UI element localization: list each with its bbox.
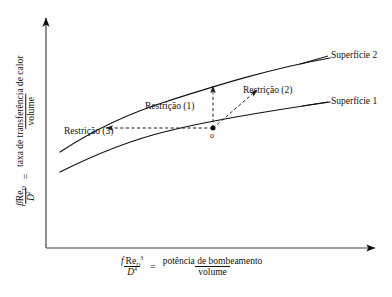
curve-label-surface-1: Superfície 1	[331, 96, 377, 106]
x-lhs-re: Re	[126, 256, 137, 266]
origin-point-label: o	[210, 131, 214, 140]
curve-surface-2	[60, 58, 330, 152]
curve-group	[60, 58, 330, 172]
y-lhs-re: Re	[15, 191, 25, 202]
y-axis-label: βReD D2 = taxa de transferência de calor…	[15, 21, 37, 241]
y-axis-rhs-fraction: taxa de transferência de calor volume	[15, 53, 37, 170]
y-lhs-den-sup: 2	[25, 191, 31, 194]
diagram-svg	[0, 0, 392, 297]
x-lhs-den-sup: 4	[134, 266, 137, 272]
leader-line-surface-1	[302, 102, 328, 106]
y-axis-lhs-fraction: βReD D2	[15, 183, 37, 209]
constraint-label-2: Restrição (2)	[243, 85, 292, 95]
constraint-2-arrow	[213, 90, 257, 128]
x-axis-label: f ReD3 D4 = potência de bombeamento volu…	[118, 256, 265, 278]
y-lhs-den: D	[27, 194, 37, 201]
x-lhs-re-sup: 3	[140, 255, 143, 261]
y-lhs-beta: β	[15, 201, 25, 206]
y-axis-equals: =	[21, 173, 31, 180]
y-rhs-numerator: taxa de transferência de calor	[15, 53, 25, 170]
curve-label-surface-2: Superfície 2	[331, 50, 377, 60]
origin-point-marker	[211, 126, 216, 131]
x-axis-equals: =	[149, 262, 156, 272]
constraint-label-3: Restrição (3)	[64, 126, 113, 136]
x-axis-rhs-fraction: potência de bombeamento volume	[160, 256, 266, 278]
x-axis-lhs-fraction: f ReD3 D4	[118, 256, 146, 278]
leader-line-surface-2	[300, 56, 328, 64]
figure-canvas: Superfície 2 Superfície 1 Restrição (1) …	[0, 0, 392, 297]
constraint-label-1: Restrição (1)	[145, 101, 194, 111]
x-rhs-denominator: volume	[195, 266, 230, 277]
curve-surface-1	[60, 102, 330, 172]
y-rhs-denominator: volume	[26, 94, 37, 129]
x-rhs-numerator: potência de bombeamento	[160, 256, 266, 266]
